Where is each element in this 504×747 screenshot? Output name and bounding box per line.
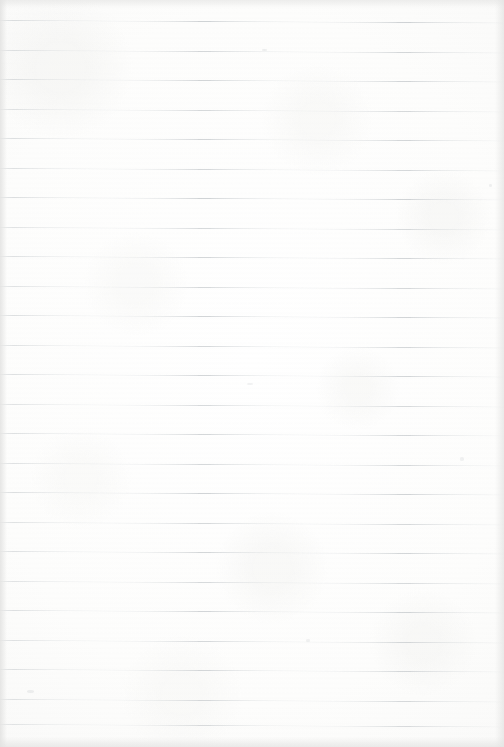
page-text-content [0,0,504,747]
scanned-paper-sheet [0,0,504,747]
